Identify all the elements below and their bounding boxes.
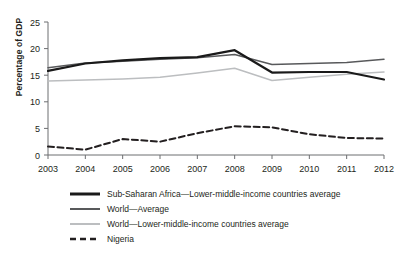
legend-item: World—Lower-middle-income countries aver… — [70, 216, 400, 231]
thick-black-line-icon — [70, 189, 100, 199]
x-tick-label: 2006 — [150, 164, 170, 174]
x-tick-label: 2005 — [113, 164, 133, 174]
chart-legend: Sub-Saharan Africa—Lower-middle-income c… — [70, 186, 400, 246]
x-tick-label: 2008 — [225, 164, 245, 174]
y-axis-ticks — [44, 22, 48, 155]
medium-gray-line-icon — [70, 204, 100, 214]
legend-item: Sub-Saharan Africa—Lower-middle-income c… — [70, 186, 400, 201]
series-line — [48, 126, 384, 149]
x-tick-label: 2004 — [75, 164, 95, 174]
series-lines — [48, 50, 384, 149]
y-tick-label: 15 — [30, 71, 40, 81]
x-tick-label: 2012 — [374, 164, 394, 174]
y-axis-tick-labels: 0510152025 — [30, 18, 40, 161]
x-tick-label: 2010 — [299, 164, 319, 174]
legend-item: World—Average — [70, 201, 400, 216]
light-gray-line-icon — [70, 219, 100, 229]
line-chart-figure: Percentage of GDP 0510152025 20032004200… — [0, 0, 404, 255]
legend-item-label: Sub-Saharan Africa—Lower-middle-income c… — [107, 189, 340, 199]
y-tick-label: 10 — [30, 97, 40, 107]
series-line — [48, 54, 384, 67]
x-axis-tick-labels: 2003200420052006200720082009201020112012 — [38, 164, 394, 174]
legend-item: Nigeria — [70, 231, 400, 246]
black-dashed-line-icon — [70, 234, 100, 244]
y-tick-label: 0 — [35, 151, 40, 161]
x-tick-label: 2011 — [337, 164, 356, 174]
plot-area: 0510152025 20032004200520062007200820092… — [0, 0, 404, 182]
legend-item-label: Nigeria — [107, 234, 134, 244]
x-axis-ticks — [48, 155, 384, 159]
legend-item-label: World—Lower-middle-income countries aver… — [107, 219, 289, 229]
y-tick-label: 25 — [30, 18, 40, 28]
x-tick-label: 2009 — [262, 164, 282, 174]
legend-item-label: World—Average — [107, 204, 169, 214]
y-tick-label: 20 — [30, 44, 40, 54]
x-tick-label: 2007 — [187, 164, 207, 174]
y-tick-label: 5 — [35, 124, 40, 134]
x-tick-label: 2003 — [38, 164, 58, 174]
series-line — [48, 68, 384, 81]
